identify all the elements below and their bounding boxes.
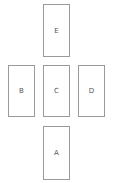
card-b-label: B xyxy=(19,87,24,95)
card-b: B xyxy=(8,65,35,117)
card-c-label: C xyxy=(54,87,59,95)
card-d: D xyxy=(78,65,105,117)
card-d-label: D xyxy=(89,87,94,95)
card-c: C xyxy=(43,65,70,117)
card-e-label: E xyxy=(54,27,58,35)
card-e: E xyxy=(43,4,70,57)
card-a: A xyxy=(43,126,70,180)
card-a-label: A xyxy=(54,149,59,157)
